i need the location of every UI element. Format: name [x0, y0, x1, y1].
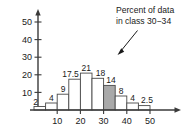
x-tick-label-10: 10	[52, 116, 62, 126]
histogram-figure: 10 20 30 40 50	[0, 0, 195, 134]
bar-label-5-9: 4	[49, 93, 54, 103]
bar-30-34-highlighted	[104, 85, 116, 110]
bar-label-25-29: 18	[96, 68, 106, 78]
y-tick-label-40: 40	[22, 35, 32, 45]
callout-line-2: in class 30−34	[116, 16, 171, 26]
callout-line-1: Percent of data	[116, 5, 175, 15]
callout-arrowhead	[118, 48, 125, 55]
bar-label-0-4: 2	[33, 97, 38, 107]
bar-25-29	[92, 78, 104, 110]
y-tick-label-50: 50	[22, 17, 32, 27]
bar-label-35-39: 8	[119, 86, 124, 96]
y-tick-label-30: 30	[22, 52, 32, 62]
bar-label-10-14: 9	[61, 84, 66, 94]
bar-15-19	[69, 79, 81, 110]
bar-40-44	[127, 103, 139, 110]
bar-20-24	[80, 73, 92, 110]
x-tick-label-30: 30	[99, 116, 109, 126]
x-tick-label-50: 50	[145, 116, 155, 126]
y-tick-label-10: 10	[22, 88, 32, 98]
bar-label-45-49: 2.5	[141, 95, 153, 105]
bar-35-39	[115, 96, 127, 110]
bar-5-9	[46, 103, 58, 110]
callout-arrow-line	[121, 31, 138, 52]
bar-label-30-34: 14	[106, 75, 116, 85]
x-axis-arrowhead	[175, 107, 182, 112]
bar-label-40-44: 4	[130, 93, 135, 103]
x-tick-label-20: 20	[75, 116, 85, 126]
histogram-chart: 10 20 30 40 50	[0, 0, 195, 134]
y-axis: 10 20 30 40 50	[22, 9, 42, 110]
bar-label-15-19: 17.5	[62, 69, 79, 79]
x-tick-label-40: 40	[122, 116, 132, 126]
bars-group	[34, 73, 150, 110]
highlight-callout: Percent of data in class 30−34	[116, 5, 175, 55]
x-axis: 10 20 30 40 50	[30, 107, 181, 126]
bar-10-14	[57, 94, 69, 110]
y-tick-label-20: 20	[22, 70, 32, 80]
bar-label-20-24: 21	[81, 63, 91, 73]
y-axis-arrowhead	[35, 9, 40, 16]
